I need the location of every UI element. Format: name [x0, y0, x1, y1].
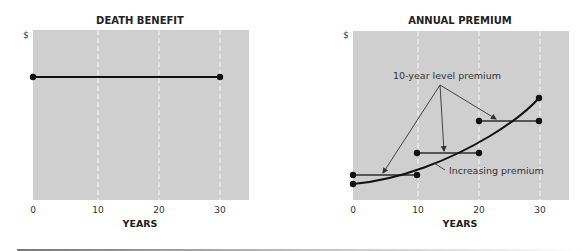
chart-title: DEATH BENEFIT	[96, 15, 184, 26]
x-tick: 10	[412, 205, 424, 215]
x-tick: 30	[214, 205, 226, 215]
y-axis-label: $	[23, 30, 29, 40]
annotation-level-premium: 10-year level premium	[393, 70, 501, 81]
x-tick: 20	[153, 205, 165, 215]
x-tick: 10	[92, 205, 104, 215]
figure: DEATH BENEFIT $ 0 10 20 30 YEARS ANNUAL …	[0, 0, 583, 251]
data-point	[30, 74, 36, 80]
plot-area	[33, 30, 249, 200]
y-axis-label: $	[343, 30, 349, 40]
x-tick: 20	[473, 205, 485, 215]
x-tick: 0	[350, 205, 356, 215]
death-benefit-chart: DEATH BENEFIT $ 0 10 20 30 YEARS	[23, 15, 249, 229]
x-axis-label: YEARS	[122, 218, 158, 229]
x-tick: 30	[534, 205, 546, 215]
annotation-increasing-premium: Increasing premium	[449, 165, 544, 176]
chart-title: ANNUAL PREMIUM	[408, 15, 512, 26]
x-axis-label: YEARS	[442, 218, 478, 229]
annual-premium-chart: ANNUAL PREMIUM $ 10-year level prem	[343, 15, 569, 229]
data-point	[217, 74, 223, 80]
x-tick: 0	[30, 205, 36, 215]
